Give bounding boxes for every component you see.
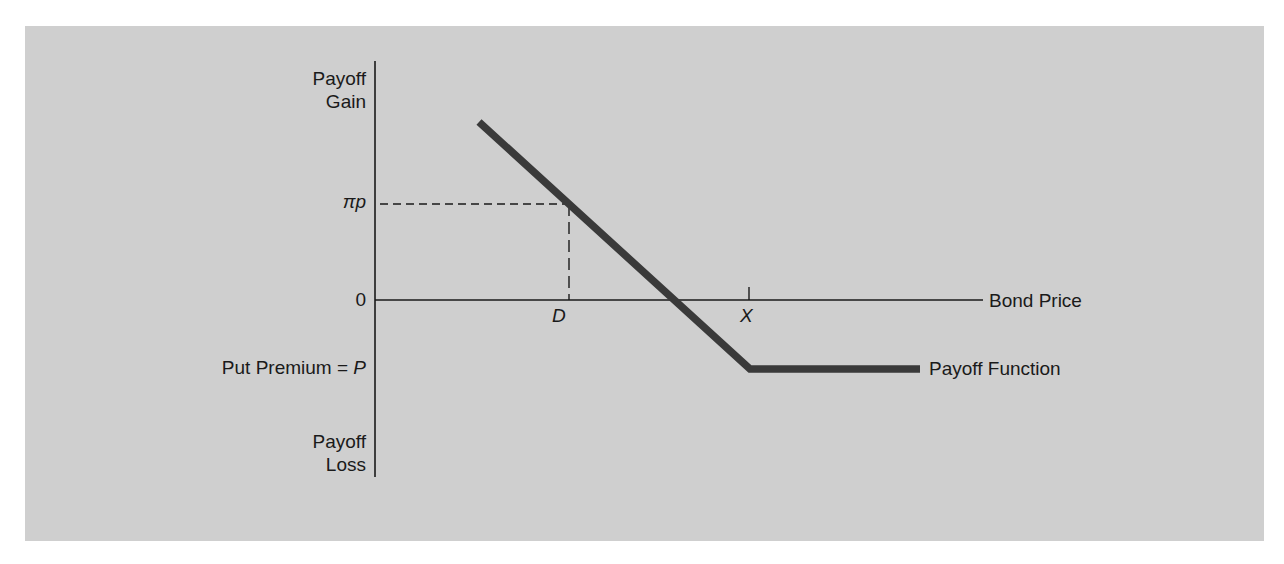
y-tick-pi-p: πp bbox=[300, 190, 366, 213]
payoff-function-label: Payoff Function bbox=[929, 357, 1061, 380]
y-axis-gain-line2: Gain bbox=[270, 90, 366, 113]
payoff-diagram bbox=[0, 0, 1284, 564]
put-premium-text: Put Premium = bbox=[222, 357, 353, 378]
y-axis-loss-line2: Loss bbox=[270, 453, 366, 476]
put-premium-symbol: P bbox=[353, 357, 366, 378]
x-axis-label: Bond Price bbox=[989, 289, 1082, 312]
y-axis-loss-line1: Payoff bbox=[270, 430, 366, 453]
x-tick-D: D bbox=[552, 304, 566, 327]
payoff-function-line bbox=[479, 122, 920, 369]
y-tick-put-premium: Put Premium = P bbox=[150, 356, 366, 379]
y-tick-zero: 0 bbox=[300, 288, 366, 311]
y-axis-loss-label: Payoff Loss bbox=[270, 430, 366, 476]
x-tick-X-label: X bbox=[740, 304, 753, 327]
y-axis-gain-line1: Payoff bbox=[270, 67, 366, 90]
y-axis-gain-label: Payoff Gain bbox=[270, 67, 366, 113]
